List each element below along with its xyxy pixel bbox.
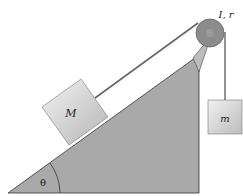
pulley-label: I, r: [217, 9, 234, 20]
diagram-canvas: M m I, r θ: [0, 0, 243, 196]
block-M-label: M: [64, 107, 77, 120]
incline-wedge: [8, 55, 199, 193]
pulley-hub: [206, 29, 214, 37]
block-m-label: m: [220, 113, 229, 124]
incline-pulley-diagram: M m I, r θ: [0, 0, 243, 196]
angle-label: θ: [40, 177, 46, 188]
